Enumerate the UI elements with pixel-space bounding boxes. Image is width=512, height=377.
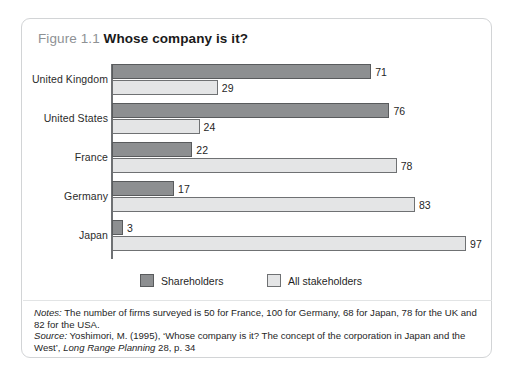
notes-line: Notes: The number of firms surveyed is 5… (34, 307, 484, 330)
bar-chart-plot: United Kingdom 71 29 United States 76 24… (22, 61, 493, 279)
bar-group-united-kingdom: United Kingdom 71 29 (22, 64, 493, 96)
legend-swatch-shareholders (140, 274, 154, 287)
bar-value-all-stakeholders-japan: 97 (470, 238, 482, 250)
source-tail: 28, p. 34 (155, 342, 195, 353)
bar-value-all-stakeholders-france: 78 (401, 160, 413, 172)
category-label-germany: Germany (64, 190, 108, 202)
category-label-japan: Japan (79, 229, 108, 241)
bar-all-stakeholders-united-kingdom: 29 (112, 80, 218, 95)
bar-all-stakeholders-united-states: 24 (112, 119, 200, 134)
footnote-separator (23, 300, 492, 301)
bar-shareholders-united-kingdom: 71 (112, 64, 371, 79)
bar-all-stakeholders-germany: 83 (112, 197, 415, 212)
bar-value-all-stakeholders-germany: 83 (419, 199, 431, 211)
bar-shareholders-france: 22 (112, 142, 192, 157)
legend-item-shareholders: Shareholders (140, 274, 223, 287)
bar-group-japan: Japan 3 97 (22, 220, 493, 252)
legend-swatch-all-stakeholders (267, 274, 281, 287)
bar-value-shareholders-united-states: 76 (393, 105, 405, 117)
legend-item-all-stakeholders: All stakeholders (267, 274, 362, 287)
bar-shareholders-united-states: 76 (112, 103, 389, 118)
figure-card: Figure 1.1 Whose company is it? United K… (21, 18, 492, 358)
bar-value-shareholders-france: 22 (196, 144, 208, 156)
figure-name: Whose company is it? (104, 31, 249, 46)
bar-group-united-states: United States 76 24 (22, 103, 493, 135)
category-label-united-states: United States (44, 112, 108, 124)
notes-text: The number of firms surveyed is 50 for F… (34, 307, 477, 330)
bar-value-shareholders-japan: 3 (127, 222, 133, 234)
bar-value-all-stakeholders-united-states: 24 (204, 121, 216, 133)
bar-value-shareholders-germany: 17 (178, 183, 190, 195)
category-label-france: France (75, 151, 108, 163)
category-label-united-kingdom: United Kingdom (32, 73, 108, 85)
figure-number: Figure 1.1 (38, 31, 100, 46)
chart-legend: Shareholders All stakeholders (22, 274, 493, 294)
bar-value-all-stakeholders-united-kingdom: 29 (222, 82, 234, 94)
source-label: Source: (34, 330, 67, 341)
bar-value-shareholders-united-kingdom: 71 (375, 66, 387, 78)
bar-shareholders-germany: 17 (112, 181, 174, 196)
bar-all-stakeholders-france: 78 (112, 158, 397, 173)
legend-label-shareholders: Shareholders (161, 275, 223, 287)
bar-group-germany: Germany 17 83 (22, 181, 493, 213)
source-journal: Long Range Planning (63, 342, 155, 353)
bar-all-stakeholders-japan: 97 (112, 236, 466, 251)
source-line: Source: Yoshimori, M. (1995), ‘Whose com… (34, 330, 484, 353)
figure-footnotes: Notes: The number of firms surveyed is 5… (34, 307, 484, 353)
bar-shareholders-japan: 3 (112, 220, 123, 235)
notes-label: Notes: (34, 307, 62, 318)
legend-label-all-stakeholders: All stakeholders (288, 275, 362, 287)
bar-group-france: France 22 78 (22, 142, 493, 174)
figure-title: Figure 1.1 Whose company is it? (38, 31, 248, 47)
